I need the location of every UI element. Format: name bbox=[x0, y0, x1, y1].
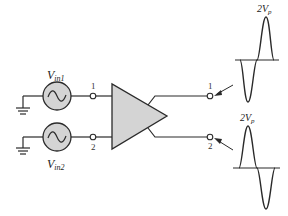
input-terminal-2-label: 2 bbox=[91, 142, 96, 152]
output-line-1 bbox=[148, 96, 207, 105]
arrow-icon bbox=[214, 138, 233, 150]
input-terminal-2 bbox=[90, 134, 112, 140]
ac-source-vin2 bbox=[43, 123, 90, 151]
input-terminal-1-label: 1 bbox=[91, 81, 96, 91]
output-1-amplitude-label: 2Vp bbox=[257, 3, 272, 16]
arrow-icon bbox=[214, 85, 233, 96]
output-terminal-2-label: 2 bbox=[208, 141, 213, 151]
vin2-label: Vin2 bbox=[47, 157, 65, 172]
ac-source-vin1 bbox=[43, 82, 90, 110]
output-line-2 bbox=[148, 128, 207, 137]
output-terminal-1-label: 1 bbox=[208, 81, 213, 91]
amplifier-triangle-icon bbox=[112, 84, 167, 149]
ground-icon bbox=[16, 137, 43, 154]
output-2-waveform bbox=[233, 126, 280, 209]
output-1-waveform bbox=[235, 17, 279, 102]
vin1-label: Vin1 bbox=[47, 68, 65, 83]
ground-icon bbox=[16, 96, 43, 114]
output-2-amplitude-label: 2Vp bbox=[240, 112, 255, 125]
input-terminal-1 bbox=[90, 93, 112, 99]
output-terminal-1 bbox=[207, 93, 213, 99]
differential-amplifier-diagram: Vin1 Vin2 1 2 1 2 2Vp bbox=[0, 0, 288, 216]
output-terminal-2 bbox=[207, 134, 213, 140]
